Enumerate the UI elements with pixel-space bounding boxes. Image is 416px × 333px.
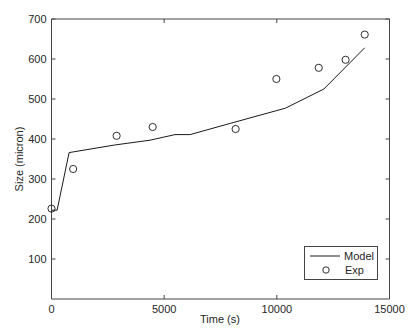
legend-model-label: Model [344, 250, 374, 262]
exp-data-point [149, 123, 156, 130]
y-tick-label: 400 [28, 133, 46, 145]
y-axis-label: Size (micron) [13, 127, 25, 192]
y-tick-label: 600 [28, 53, 46, 65]
exp-data-point [113, 132, 120, 139]
y-tick-label: 100 [28, 253, 46, 265]
x-tick-label: 0 [48, 303, 54, 315]
x-tick-label: 10000 [262, 303, 293, 315]
legend-exp-label: Exp [345, 264, 364, 276]
exp-data-point [361, 31, 368, 38]
model-line-series [52, 48, 365, 210]
model-line [52, 48, 365, 210]
exp-data-point [232, 125, 239, 132]
y-tick-label: 500 [28, 93, 46, 105]
x-tick-label: 5000 [152, 303, 176, 315]
y-axis-ticks: 100200300400500600700 [28, 13, 389, 265]
y-tick-label: 300 [28, 173, 46, 185]
y-tick-label: 700 [28, 13, 46, 25]
exp-data-point [273, 75, 280, 82]
exp-marker-series [48, 31, 368, 212]
exp-data-point [70, 165, 77, 172]
exp-data-point [315, 64, 322, 71]
exp-data-point [342, 56, 349, 63]
x-axis-label: Time (s) [200, 313, 240, 325]
chart: 050001000015000 100200300400500600700 Ti… [0, 0, 416, 333]
x-tick-label: 15000 [374, 303, 405, 315]
y-tick-label: 200 [28, 213, 46, 225]
legend: Model Exp [305, 247, 378, 280]
